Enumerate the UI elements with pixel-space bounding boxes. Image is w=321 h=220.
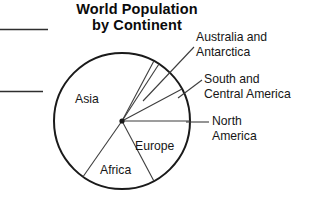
callout-north-america: North America (212, 114, 257, 143)
callout-north-line-2: America (212, 129, 257, 144)
slice-label-europe: Europe (135, 140, 174, 153)
callout-north-line-1: North (212, 114, 257, 129)
callout-south-central-america: South and Central America (204, 72, 291, 101)
callout-australia-antarctica: Australia and Antarctica (196, 30, 267, 59)
slice-label-asia: Asia (75, 93, 99, 106)
pie-chart-graphic (0, 0, 321, 220)
callout-south-central-line-1: South and (204, 72, 291, 87)
pie-centre-hub (119, 118, 124, 123)
callout-australia-line-1: Australia and (196, 30, 267, 45)
callout-australia-line-2: Antarctica (196, 45, 267, 60)
callout-south-central-line-2: Central America (204, 87, 291, 102)
pie-chart-figure: World Population by Continent Asia Europ… (0, 0, 321, 220)
slice-label-africa: Africa (100, 164, 131, 177)
